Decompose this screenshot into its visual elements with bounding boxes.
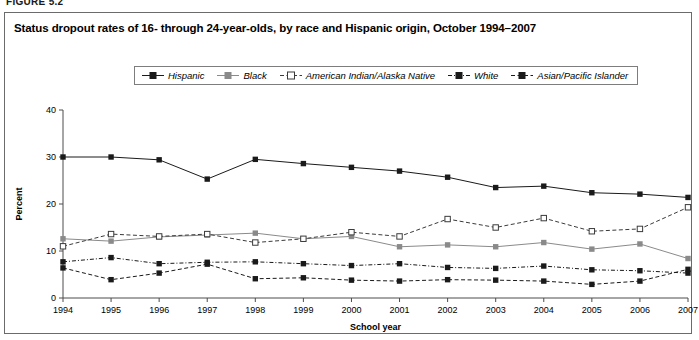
data-point bbox=[205, 231, 210, 236]
data-point bbox=[493, 244, 498, 249]
data-point bbox=[637, 241, 642, 246]
data-point bbox=[60, 259, 65, 264]
data-point bbox=[253, 230, 258, 235]
data-point bbox=[589, 229, 594, 234]
data-point bbox=[349, 263, 354, 268]
x-tick-label: 2006 bbox=[630, 305, 650, 315]
data-point bbox=[397, 168, 402, 173]
data-point bbox=[156, 270, 161, 275]
data-point bbox=[108, 255, 113, 260]
x-tick-label: 2004 bbox=[534, 305, 554, 315]
data-point bbox=[301, 161, 306, 166]
y-tick-label: 20 bbox=[46, 199, 56, 209]
data-point bbox=[60, 154, 65, 159]
data-point bbox=[349, 230, 354, 235]
data-point bbox=[541, 278, 546, 283]
data-point bbox=[349, 165, 354, 170]
data-point bbox=[685, 195, 690, 200]
data-point bbox=[156, 157, 161, 162]
data-point bbox=[445, 175, 450, 180]
data-point bbox=[301, 236, 306, 241]
data-point bbox=[301, 261, 306, 266]
x-tick-label: 1996 bbox=[149, 305, 169, 315]
data-point bbox=[445, 277, 450, 282]
data-point bbox=[253, 259, 258, 264]
data-point bbox=[156, 261, 161, 266]
data-point bbox=[397, 278, 402, 283]
x-axis-title: School year bbox=[350, 322, 402, 332]
x-tick-label: 2005 bbox=[582, 305, 602, 315]
series-hispanic bbox=[60, 154, 690, 200]
data-point bbox=[445, 242, 450, 247]
data-point bbox=[60, 236, 65, 241]
series-american-indian-alaska-native bbox=[60, 205, 690, 249]
data-point bbox=[253, 276, 258, 281]
data-point bbox=[445, 265, 450, 270]
y-tick-label: 40 bbox=[46, 105, 56, 115]
x-tick-label: 2003 bbox=[486, 305, 506, 315]
data-point bbox=[685, 205, 690, 210]
y-tick-label: 0 bbox=[51, 293, 56, 303]
chart-plot-area: 0102030401994199519961997199819992000200… bbox=[0, 0, 699, 340]
data-point bbox=[589, 282, 594, 287]
data-point bbox=[637, 191, 642, 196]
data-point bbox=[541, 240, 546, 245]
x-tick-label: 1998 bbox=[245, 305, 265, 315]
x-tick-label: 2007 bbox=[678, 305, 698, 315]
data-point bbox=[493, 266, 498, 271]
data-point bbox=[493, 277, 498, 282]
x-tick-label: 1995 bbox=[101, 305, 121, 315]
data-point bbox=[541, 215, 546, 220]
data-point bbox=[156, 234, 161, 239]
data-point bbox=[589, 190, 594, 195]
data-point bbox=[637, 268, 642, 273]
data-point bbox=[397, 261, 402, 266]
x-tick-label: 2001 bbox=[390, 305, 410, 315]
data-point bbox=[253, 240, 258, 245]
x-tick-label: 1994 bbox=[53, 305, 73, 315]
data-point bbox=[541, 183, 546, 188]
x-tick-label: 2002 bbox=[438, 305, 458, 315]
data-point bbox=[60, 244, 65, 249]
data-point bbox=[108, 231, 113, 236]
y-tick-label: 30 bbox=[46, 152, 56, 162]
series-line bbox=[63, 207, 688, 246]
data-point bbox=[108, 154, 113, 159]
data-point bbox=[685, 256, 690, 261]
data-point bbox=[108, 238, 113, 243]
data-point bbox=[205, 176, 210, 181]
y-axis-title: Percent bbox=[14, 187, 24, 220]
y-tick-label: 10 bbox=[46, 246, 56, 256]
data-point bbox=[445, 216, 450, 221]
data-point bbox=[493, 225, 498, 230]
data-point bbox=[637, 278, 642, 283]
data-point bbox=[205, 261, 210, 266]
x-tick-label: 1997 bbox=[197, 305, 217, 315]
series-white bbox=[60, 255, 690, 276]
data-point bbox=[685, 267, 690, 272]
data-point bbox=[60, 265, 65, 270]
data-point bbox=[637, 226, 642, 231]
data-point bbox=[349, 277, 354, 282]
data-point bbox=[253, 157, 258, 162]
x-tick-label: 2000 bbox=[341, 305, 361, 315]
data-point bbox=[589, 267, 594, 272]
data-point bbox=[589, 246, 594, 251]
data-point bbox=[397, 234, 402, 239]
series-asian-pacific-islander bbox=[60, 261, 690, 287]
data-point bbox=[541, 263, 546, 268]
data-point bbox=[108, 277, 113, 282]
data-point bbox=[397, 244, 402, 249]
x-tick-label: 1999 bbox=[293, 305, 313, 315]
data-point bbox=[493, 185, 498, 190]
series-black bbox=[60, 230, 690, 261]
data-point bbox=[301, 275, 306, 280]
